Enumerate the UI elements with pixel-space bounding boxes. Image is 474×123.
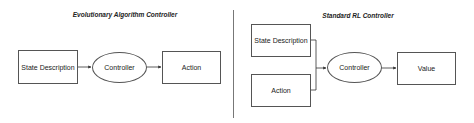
state-description-box: State Description <box>251 24 311 57</box>
action-input-box: Action <box>251 74 311 107</box>
controller-node: Controller <box>327 52 382 83</box>
right-panel-title: Standard RL Controller <box>322 12 393 19</box>
panel-divider <box>233 10 234 118</box>
controller-node: Controller <box>92 52 147 83</box>
left-panel-title: Evolutionary Algorithm Controller <box>73 11 178 18</box>
state-description-box: State Description <box>18 50 78 84</box>
action-box: Action <box>162 51 221 84</box>
value-box: Value <box>397 52 456 85</box>
